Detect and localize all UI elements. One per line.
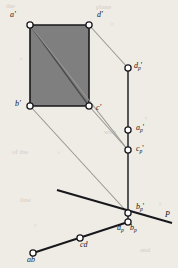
label-bp-front-prime: ' <box>143 202 144 211</box>
label-dp-top: dp <box>117 224 124 233</box>
point-marker-ap-front[interactable] <box>125 127 131 133</box>
ray-d-to-dp <box>89 25 128 68</box>
label-ab-top: ab <box>27 256 35 264</box>
label-bp-top: bp <box>130 224 137 233</box>
label-dp-front: dp' <box>134 62 142 71</box>
label-bp-front: bp' <box>136 203 144 212</box>
label-bp-top-subscript: p <box>134 227 137 233</box>
ray-c-to-cp <box>89 106 128 150</box>
point-marker-a-front[interactable] <box>27 22 33 28</box>
label-cd-top: cd <box>80 241 88 249</box>
point-marker-b-front[interactable] <box>27 103 33 109</box>
figure-canvas: the plane with of the line and a' d' b' … <box>0 0 178 268</box>
label-dp-front-prime: ' <box>141 61 142 70</box>
label-cp-front-prime: ' <box>142 144 143 153</box>
label-ap-front-prime: ' <box>143 123 144 132</box>
point-marker-c-front[interactable] <box>86 103 92 109</box>
label-dp-top-subscript: p <box>121 227 124 233</box>
point-marker-cp-front[interactable] <box>125 147 131 153</box>
label-c-front: c' <box>96 104 101 112</box>
technical-drawing <box>0 0 178 268</box>
label-d-front: d' <box>97 11 103 19</box>
point-marker-dp-front[interactable] <box>125 65 131 71</box>
label-b-front: b' <box>15 100 21 108</box>
point-marker-bp-front[interactable] <box>125 210 131 216</box>
label-plane-p: P <box>165 211 170 219</box>
ground-line-p <box>57 190 172 223</box>
label-cp-front: cp' <box>136 145 144 154</box>
label-a-front: a' <box>10 11 16 19</box>
label-ap-front: ap' <box>136 124 144 133</box>
point-marker-d-front[interactable] <box>86 22 92 28</box>
